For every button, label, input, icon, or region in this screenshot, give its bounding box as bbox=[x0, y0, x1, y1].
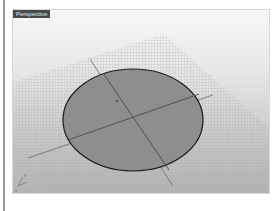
circle-surface bbox=[63, 69, 203, 171]
axes-widget-icon: y x bbox=[15, 172, 27, 193]
viewport-scene: y x bbox=[13, 10, 270, 194]
axis-y-label: y bbox=[24, 172, 26, 177]
left-panel-divider bbox=[3, 0, 5, 211]
perspective-viewport[interactable]: Perspective y x bbox=[12, 9, 270, 194]
axis-x-label: x bbox=[15, 188, 17, 193]
viewport-title-tab[interactable]: Perspective bbox=[13, 10, 50, 18]
point-marker bbox=[116, 100, 118, 102]
